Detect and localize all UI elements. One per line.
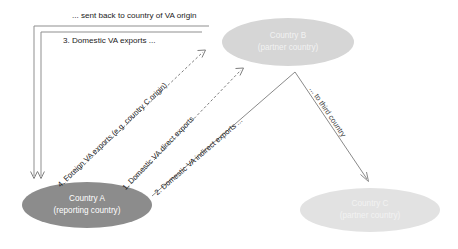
country-a-subtitle: (reporting country) [54, 206, 121, 215]
diagram-canvas: Country B (partner country) Country A (r… [0, 0, 458, 249]
country-c-subtitle: (partner country) [340, 211, 401, 220]
flow-4-arrowhead [198, 50, 206, 58]
node-country-a[interactable]: Country A (reporting country) [22, 182, 152, 228]
country-b-name: Country B [270, 31, 307, 40]
annotation-sent-back-label: ... sent back to country of VA origin [72, 11, 196, 20]
country-c-name: Country C [352, 199, 389, 208]
flow-3-label: 3. Domestic VA exports ... [63, 36, 156, 45]
flow-4-label: 4. Foreign VA exports (e.g. country C or… [56, 80, 170, 188]
return-flow-group [31, 26, 209, 179]
country-a-name: Country A [69, 194, 105, 203]
flow-2-label: 2. Domestic VA indirect exports ... [153, 116, 244, 197]
node-country-b[interactable]: Country B (partner country) [222, 18, 354, 66]
flow-2-and-third-country-line [152, 72, 367, 196]
flow-1-label: 1. Domestic VA direct exports [120, 114, 196, 191]
country-b-subtitle: (partner country) [258, 43, 319, 52]
flow-diagram-svg: Country B (partner country) Country A (r… [0, 0, 458, 249]
annotation-third-country-label: ... to third country [308, 85, 348, 139]
return-path-inner [41, 32, 202, 176]
country-c-ellipse[interactable] [300, 188, 440, 232]
flow-1-arrowhead [236, 68, 244, 76]
return-path-outer [34, 26, 209, 176]
node-country-c[interactable]: Country C (partner country) [300, 188, 440, 232]
third-country-arrowhead [361, 172, 369, 182]
flow-2-group [152, 72, 369, 196]
country-b-ellipse[interactable] [222, 18, 354, 66]
country-a-ellipse[interactable] [22, 182, 152, 228]
